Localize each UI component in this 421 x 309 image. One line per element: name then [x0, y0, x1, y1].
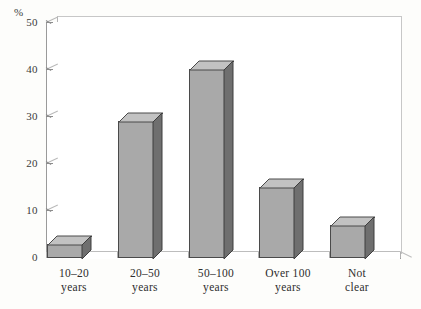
x-category-label-1-line2: years	[109, 280, 181, 294]
bar-side-face	[152, 112, 163, 260]
ytick-mark-20	[46, 163, 53, 164]
bar-10-20-years	[47, 244, 83, 258]
bar-chart: % 50 40 30 20 10 0	[0, 0, 421, 309]
ytick-label-30: 30	[12, 110, 38, 122]
x-category-label-2: 50–100 years	[180, 266, 252, 294]
ytick-label-50: 50	[12, 16, 38, 28]
x-category-label-1-line1: 20–50	[130, 267, 160, 279]
ytick-mark-40	[46, 69, 53, 70]
bar-not-clear	[330, 225, 366, 258]
x-category-label-0-line1: 10–20	[59, 267, 89, 279]
ytick-label-20: 20	[12, 157, 38, 169]
x-category-label-0-line2: years	[38, 280, 110, 294]
ytick-label-40: 40	[12, 63, 38, 75]
plot-floor-right-edge	[400, 251, 412, 258]
bar-20-50-years	[118, 121, 154, 258]
x-category-label-3-line2: years	[250, 280, 326, 294]
ytick-label-0: 0	[12, 251, 38, 263]
bar-over-100-years	[259, 187, 295, 258]
x-category-label-4: Not clear	[321, 266, 393, 294]
bar-side-face	[293, 178, 304, 260]
x-category-label-2-line2: years	[180, 280, 252, 294]
bar-side-face	[223, 60, 234, 260]
x-category-label-3: Over 100 years	[250, 266, 326, 294]
x-category-label-2-line1: 50–100	[198, 267, 234, 279]
bar-50-100-years	[189, 69, 225, 258]
bar-side-face	[81, 235, 92, 260]
x-category-label-1: 20–50 years	[109, 266, 181, 294]
x-category-label-0: 10–20 years	[38, 266, 110, 294]
bar-side-face	[364, 216, 375, 260]
ytick-mark-50	[46, 22, 53, 23]
ytick-mark-30	[46, 116, 53, 117]
x-category-label-3-line1: Over 100	[265, 267, 311, 279]
x-category-label-4-line2: clear	[321, 280, 393, 294]
x-category-label-4-line1: Not	[348, 267, 366, 279]
ytick-label-10: 10	[12, 204, 38, 216]
xtick-mark-5	[400, 252, 401, 258]
ytick-mark-10	[46, 210, 53, 211]
